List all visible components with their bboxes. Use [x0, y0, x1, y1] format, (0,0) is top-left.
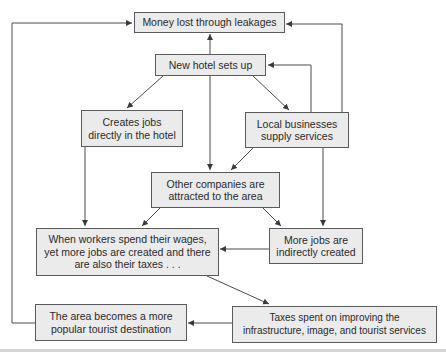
- node-label: New hotel sets up: [169, 59, 252, 72]
- node-label-line: infrastructure, image, and tourist servi…: [243, 325, 426, 338]
- node-indirect-jobs: More jobs are indirectly created: [269, 228, 363, 264]
- node-label-line: popular tourist destination: [51, 323, 171, 336]
- multiplier-flow-diagram: Money lost through leakages New hotel se…: [0, 0, 446, 353]
- node-label-line: Local businesses: [257, 118, 338, 131]
- node-taxes-spent: Taxes spent on improving the infrastruct…: [232, 306, 437, 343]
- node-label-line: are also their taxes . . .: [74, 258, 180, 271]
- node-direct-jobs: Creates jobs directly in the hotel: [81, 110, 183, 147]
- arrow-local-to-other-companies: [231, 148, 253, 170]
- node-label-line: indirectly created: [276, 246, 355, 259]
- arrow-workers-to-taxes: [207, 276, 269, 304]
- node-label-line: attracted to the area: [169, 190, 263, 203]
- node-label-line: More jobs are: [284, 234, 348, 247]
- node-label-line: Other companies are: [166, 178, 264, 191]
- arrow-hotel-to-local-businesses: [253, 76, 289, 110]
- node-label-line: supply services: [261, 130, 333, 143]
- node-label-line: The area becomes a more: [49, 310, 172, 323]
- node-local-businesses: Local businesses supply services: [245, 112, 349, 148]
- node-other-companies: Other companies are attracted to the are…: [151, 172, 280, 208]
- node-label-line: yet more jobs are created and there: [44, 246, 210, 259]
- arrow-local-to-leakages: [286, 24, 342, 112]
- arrow-destination-to-leakages: [12, 23, 132, 323]
- node-leakages: Money lost through leakages: [134, 12, 285, 33]
- node-tourist-destination: The area becomes a more popular tourist …: [35, 304, 187, 341]
- node-workers-spend: When workers spend their wages, yet more…: [36, 228, 219, 276]
- arrow-other-to-workers: [142, 208, 160, 226]
- node-new-hotel: New hotel sets up: [155, 54, 266, 76]
- arrow-hotel-to-direct-jobs: [127, 76, 163, 108]
- node-label-line: When workers spend their wages,: [48, 233, 206, 246]
- node-label: Money lost through leakages: [142, 16, 276, 29]
- bottom-divider: [0, 349, 446, 352]
- arrow-other-to-indirect-jobs: [263, 208, 281, 226]
- node-label-line: Taxes spent on improving the: [269, 312, 399, 325]
- arrow-local-to-hotel: [268, 65, 311, 112]
- node-label-line: Creates jobs: [103, 116, 162, 129]
- node-label-line: directly in the hotel: [88, 129, 176, 142]
